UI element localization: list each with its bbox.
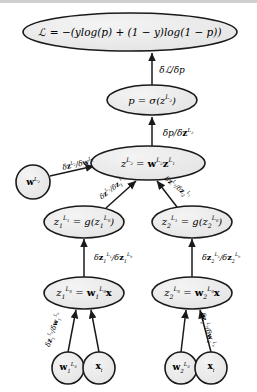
graph-node-w_L2[interactable] [16, 165, 50, 199]
graph-node-w1_L0[interactable] [52, 352, 84, 384]
graph-node-x_i_right[interactable] [195, 352, 227, 384]
graph-node-z1_L1[interactable] [44, 206, 124, 238]
diagram-canvas: ℒ = −(ylog(p) + (1 − y)log(1 − p))p = σ(… [0, 0, 257, 392]
nodes-layer [16, 13, 237, 384]
graph-node-z2_L1[interactable] [152, 206, 232, 238]
graph-edge [91, 310, 99, 352]
graph-edge [181, 310, 186, 352]
graph-node-z1_L0[interactable] [44, 277, 124, 309]
graph-edge [68, 310, 76, 352]
graph-node-p_sigmoid[interactable] [107, 85, 197, 115]
graph-edge [106, 181, 136, 208]
graph-node-z_L2[interactable] [91, 146, 205, 180]
graph-edge [157, 181, 177, 207]
graph-edge [50, 166, 94, 176]
graph-node-w2_L0[interactable] [165, 352, 197, 384]
graph-node-x_i_left[interactable] [83, 352, 115, 384]
computational-graph-svg [0, 0, 257, 392]
graph-edge [200, 310, 211, 352]
graph-node-z2_L0[interactable] [152, 277, 232, 309]
graph-node-loss[interactable] [23, 13, 237, 51]
